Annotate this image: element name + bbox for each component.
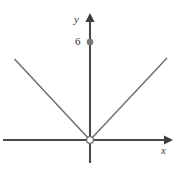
origin-open-circle <box>87 137 94 144</box>
graph-figure: y x 6 <box>0 0 178 178</box>
right-ray <box>91 58 168 140</box>
graph-canvas <box>0 0 178 178</box>
y-tick-label-6: 6 <box>75 36 81 47</box>
y-axis-arrowhead <box>85 13 94 22</box>
x-axis-label: x <box>161 145 166 156</box>
left-ray <box>15 59 90 140</box>
y-axis-label: y <box>74 14 79 25</box>
y-intercept-dot <box>87 39 94 46</box>
